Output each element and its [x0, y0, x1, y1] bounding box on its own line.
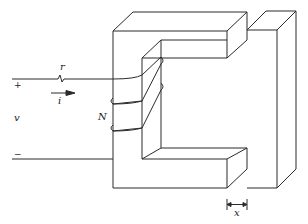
armature	[247, 11, 296, 188]
resistor	[58, 75, 64, 82]
plus-sign: +	[14, 81, 22, 90]
c-core	[113, 12, 247, 188]
coil	[12, 57, 163, 131]
current-arrow	[51, 91, 75, 96]
voltage-label: v	[14, 113, 20, 123]
resistance-label: r	[60, 62, 65, 72]
turns-label: N	[98, 112, 107, 122]
minus-sign: −	[14, 150, 22, 159]
diagram-drawing	[0, 0, 308, 224]
current-label: i	[58, 96, 61, 106]
gap-label: x	[234, 208, 240, 218]
actuator-diagram: r + i v N − x	[0, 0, 308, 224]
